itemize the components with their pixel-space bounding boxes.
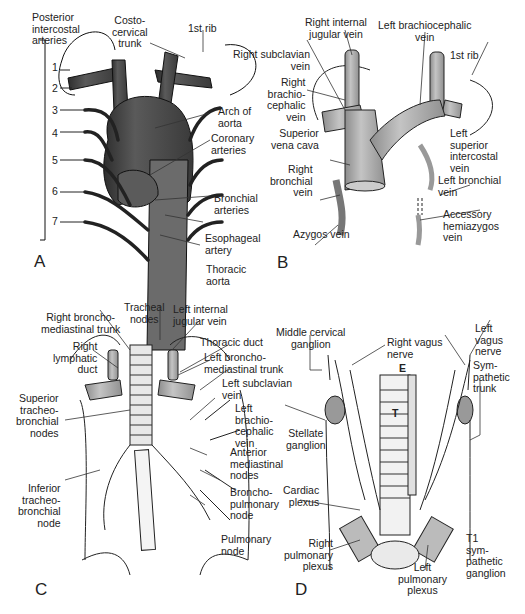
panel-d-drawing [325, 355, 473, 570]
label-esophagus-e: E [399, 363, 406, 375]
panel-letter-b: B [277, 253, 288, 273]
label-pulmonary-node: Pulmonary node [221, 534, 271, 557]
label-superior-vena-cava: Superior vena cava [271, 128, 319, 151]
intercostal-number-7: 7 [52, 216, 58, 228]
intercostal-number-1: 1 [52, 62, 58, 74]
label-costocervical-trunk: Costo- cervical trunk [112, 15, 148, 50]
label-first-rib-a: 1st rib [188, 23, 217, 35]
anatomy-illustrations [0, 0, 525, 614]
label-left-brachiocephalic-vein-b: Left brachiocephalic vein [378, 20, 471, 43]
label-right-bronchial-vein: Right bronchial vein [270, 164, 313, 199]
label-left-bronchomediastinal-trunk: Left broncho- mediastinal trunk [204, 352, 283, 375]
label-first-rib-b: 1st rib [450, 50, 479, 62]
label-azygos-vein: Azygos vein [293, 229, 350, 241]
label-superior-tracheobronchial-nodes: Superior tracheo- bronchial nodes [16, 393, 59, 439]
label-thoracic-duct: Thoracic duct [200, 337, 263, 349]
label-coronary-arteries: Coronary arteries [211, 133, 254, 156]
label-left-vagus-nerve: Left vagus nerve [475, 323, 503, 358]
label-right-subclavian-vein: Right subclavian vein [233, 49, 310, 72]
intercostal-number-5: 5 [52, 155, 58, 167]
label-right-bronchomediastinal-trunk: Right broncho- mediastinal trunk [41, 312, 120, 335]
intercostal-number-6: 6 [52, 186, 58, 198]
label-esophageal-artery: Esophageal artery [205, 233, 260, 256]
intercostal-number-4: 4 [52, 128, 58, 140]
label-right-vagus-nerve: Right vagus nerve [387, 337, 442, 360]
label-arch-of-aorta: Arch of aorta [218, 106, 251, 129]
label-anterior-mediastinal-nodes: Anterior mediastinal nodes [230, 447, 283, 482]
label-inferior-tracheobronchial-node: Inferior tracheo- bronchial node [18, 483, 61, 529]
label-left-subclavian-vein: Left subclavian vein [222, 378, 292, 401]
label-left-bronchial-vein: Left bronchial vein [438, 175, 501, 198]
label-sympathetic-trunk: Sym- pathetic trunk [473, 360, 510, 395]
label-right-brachiocephalic-vein: Right brachio- cephalic vein [267, 77, 306, 123]
intercostal-number-3: 3 [52, 105, 58, 117]
panel-letter-a: A [34, 252, 45, 272]
panel-letter-d: D [295, 580, 307, 600]
label-tracheal-nodes: Tracheal nodes [124, 302, 164, 325]
label-thoracic-aorta: Thoracic aorta [206, 264, 246, 287]
label-trachea-t: T [392, 408, 398, 420]
label-t1-sympathetic-ganglion: T1 sym- pathetic ganglion [466, 533, 506, 579]
label-left-pulmonary-plexus: Left pulmonary plexus [398, 562, 447, 597]
label-right-pulmonary-plexus: Right pulmonary plexus [284, 538, 333, 573]
label-bronchial-arteries: Bronchial arteries [214, 193, 258, 216]
label-right-internal-jugular-vein: Right internal jugular vein [305, 17, 367, 40]
intercostal-number-2: 2 [52, 83, 58, 95]
label-left-internal-jugular-vein: Left internal jugular vein [173, 304, 228, 327]
panel-letter-c: C [35, 580, 47, 600]
label-posterior-intercostal-arteries: Posterior intercostal arteries [32, 12, 80, 47]
label-stellate-ganglion: Stellate ganglion [286, 428, 326, 451]
label-cardiac-plexus: Cardiac plexus [283, 485, 319, 508]
intercostal-bracket [40, 40, 45, 240]
label-bronchopulmonary-node: Broncho- pulmonary node [230, 487, 279, 522]
label-accessory-hemiazygos-vein: Accessory hemiazygos vein [443, 209, 499, 244]
label-right-lymphatic-duct: Right lymphatic duct [53, 341, 97, 376]
label-middle-cervical-ganglion: Middle cervical ganglion [276, 327, 345, 350]
label-left-brachiocephalic-vein-c: Left brachio- cephalic vein [235, 403, 274, 449]
label-left-superior-intercostal-vein: Left superior intercostal vein [450, 128, 498, 174]
